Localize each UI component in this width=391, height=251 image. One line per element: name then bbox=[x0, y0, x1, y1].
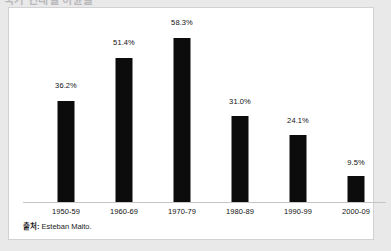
x-axis-tick-label: 1970-79 bbox=[168, 207, 196, 216]
x-axis-tick-label: 1980-89 bbox=[226, 207, 254, 216]
bar-group: 51.4% 1960-69 bbox=[95, 15, 153, 215]
bar-value-label: 51.4% bbox=[113, 38, 135, 47]
bar-value-label: 9.5% bbox=[347, 158, 365, 167]
x-axis-tick-label: 1960-69 bbox=[110, 207, 138, 216]
x-axis-tick-label: 1950-59 bbox=[52, 207, 80, 216]
bar-group: 9.5% 2000-09 bbox=[327, 15, 385, 215]
bar-rect[interactable] bbox=[174, 38, 191, 202]
bar-rect[interactable] bbox=[290, 135, 307, 202]
bar-value-label: 31.0% bbox=[229, 97, 251, 106]
bar-rect[interactable] bbox=[58, 101, 75, 202]
bar-group: 58.3% 1970-79 bbox=[153, 15, 211, 215]
bar-value-label: 58.3% bbox=[171, 18, 193, 27]
x-axis-tick-label: 2000-09 bbox=[342, 207, 370, 216]
figure-card: 36.2% 1950-59 51.4% 1960-69 58.3% 1970-7… bbox=[8, 7, 374, 240]
bar-group: 36.2% 1950-59 bbox=[37, 15, 95, 215]
bar-group: 31.0% 1980-89 bbox=[211, 15, 269, 215]
source-caption-value: Esteban Maito. bbox=[42, 222, 92, 231]
clipped-heading-strip: 국가 연대별 이윤율 bbox=[0, 0, 391, 7]
x-axis-tick-label: 1990-99 bbox=[284, 207, 312, 216]
bar-rect[interactable] bbox=[232, 116, 249, 202]
source-caption: 출처: Esteban Maito. bbox=[23, 220, 92, 231]
bar-rect[interactable] bbox=[348, 176, 365, 202]
bar-rect[interactable] bbox=[116, 58, 133, 202]
bar-value-label: 36.2% bbox=[55, 81, 77, 90]
clipped-heading-text: 국가 연대별 이윤율 bbox=[4, 0, 93, 7]
bar-chart-plot-area: 36.2% 1950-59 51.4% 1960-69 58.3% 1970-7… bbox=[23, 15, 386, 215]
bar-value-label: 24.1% bbox=[287, 116, 309, 125]
source-caption-label: 출처: bbox=[23, 222, 40, 231]
bar-group: 24.1% 1990-99 bbox=[269, 15, 327, 215]
